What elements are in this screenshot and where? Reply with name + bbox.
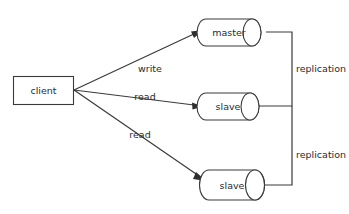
master-label: master (212, 27, 246, 38)
node-slave-2[interactable]: slave (200, 170, 265, 200)
edge-label-replication-2: replication (296, 149, 346, 160)
edge-client-to-master: write (74, 30, 203, 90)
edge-label-read-2: read (129, 129, 150, 140)
edge-line-write (74, 33, 196, 90)
slave-1-label: slave (216, 101, 241, 112)
client-label: client (30, 85, 56, 96)
diagram-canvas: write read read replication replication (0, 0, 349, 214)
node-master[interactable]: master (197, 19, 261, 46)
edge-label-read-1: read (134, 91, 155, 102)
slave-2-cylinder-cap (246, 170, 265, 200)
edge-master-to-slave-2: replication (252, 106, 346, 190)
node-client[interactable]: client (14, 77, 74, 105)
slave-1-cylinder-cap (241, 93, 259, 120)
slave-2-label: slave (220, 180, 245, 191)
replication-diagram: write read read replication replication (0, 0, 349, 214)
edge-label-replication-1: replication (296, 63, 346, 74)
node-slave-1[interactable]: slave (197, 93, 259, 120)
edge-client-to-slave-1: read (74, 90, 203, 110)
edge-line-replication-2 (261, 106, 292, 185)
edge-label-write: write (138, 63, 162, 74)
